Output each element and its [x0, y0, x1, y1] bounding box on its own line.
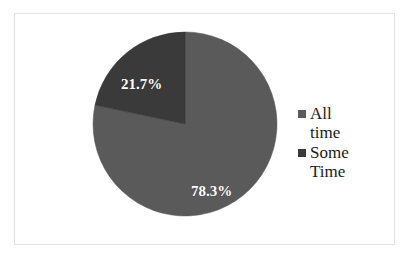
pie-chart-plot-area: 21.7% 78.3% All time Some Time	[15, 14, 394, 244]
chart-frame: 21.7% 78.3% All time Some Time	[14, 13, 395, 245]
pie-chart-graphic	[87, 26, 283, 222]
legend-label-some-time-line2: Time	[310, 162, 345, 181]
chart-legend: All time Some Time	[298, 104, 390, 182]
pie-label-some-time: 21.7%	[121, 76, 162, 93]
legend-label-all-time: All time	[310, 104, 356, 142]
legend-swatch-icon-all-time	[298, 110, 306, 118]
legend-item-some-time[interactable]: Some Time	[298, 143, 390, 181]
legend-label-all-time-line2: time	[310, 123, 340, 142]
pie-label-all-time: 78.3%	[191, 183, 232, 200]
legend-swatch-icon-some-time	[298, 149, 306, 157]
legend-item-all-time[interactable]: All time	[298, 104, 390, 142]
legend-label-some-time: Some Time	[310, 143, 356, 181]
legend-label-some-time-line1: Some	[310, 143, 349, 162]
legend-label-all-time-line1: All	[310, 104, 332, 123]
